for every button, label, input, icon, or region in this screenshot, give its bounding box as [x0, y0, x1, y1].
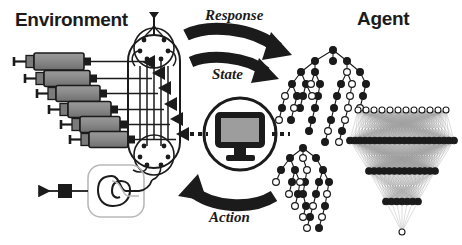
neural-network-node	[355, 107, 361, 113]
neural-network-node	[427, 107, 433, 113]
neural-network	[347, 107, 458, 235]
neural-network-node	[451, 137, 458, 144]
neural-network-node	[432, 168, 439, 175]
neural-network-node	[363, 107, 369, 113]
neural-network-node	[399, 229, 405, 235]
neural-network-node	[387, 107, 393, 113]
neural-network-node	[435, 107, 441, 113]
neural-network-node	[379, 107, 385, 113]
page-title-environment: Environment	[15, 9, 128, 31]
flow-label-state: State	[212, 66, 243, 83]
flow-label-response: Response	[205, 7, 263, 24]
page-title-agent: Agent	[357, 8, 409, 30]
neural-network-node	[395, 107, 401, 113]
flow-label-action: Action	[209, 209, 250, 226]
neural-network-node	[415, 198, 422, 205]
neural-network-node	[443, 107, 449, 113]
figure-canvas: Environment Agent Response State Action	[0, 0, 462, 245]
neural-network-node	[403, 107, 409, 113]
neural-network-node	[411, 107, 417, 113]
neural-network-node	[371, 107, 377, 113]
neural-network-node	[419, 107, 425, 113]
